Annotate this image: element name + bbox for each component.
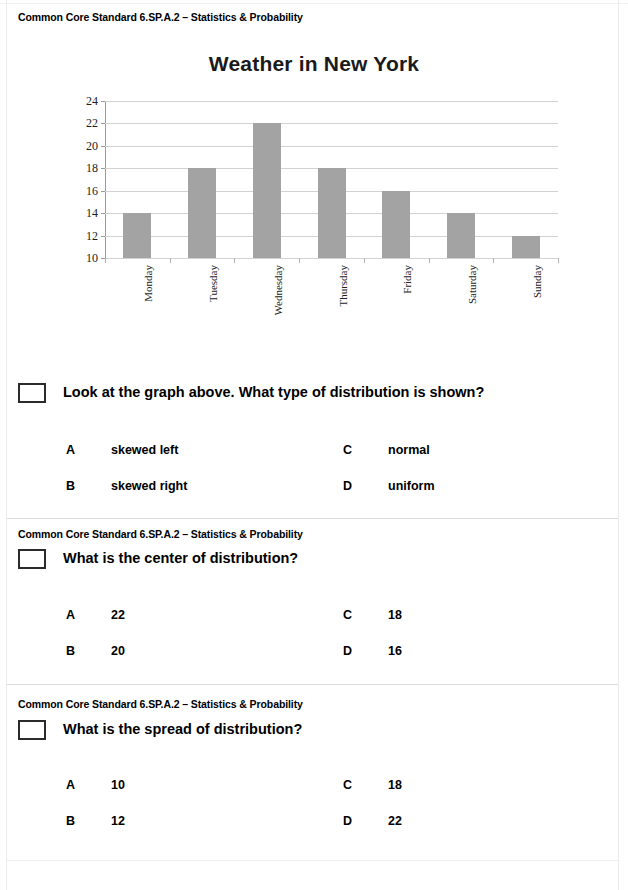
chart-y-tick-label: 24 [86, 94, 98, 109]
option-text-2-d[interactable]: 16 [388, 644, 402, 658]
block-separator-1 [7, 518, 618, 519]
option-text-3-a[interactable]: 10 [111, 778, 125, 792]
chart-x-tick-label: Thursday [337, 265, 349, 307]
block-separator-2 [7, 684, 618, 685]
standard-label-3: Common Core Standard 6.SP.A.2 – Statisti… [18, 698, 303, 710]
question-checkbox-2[interactable] [18, 549, 46, 569]
chart-gridline [105, 123, 558, 124]
standard-label-1: Common Core Standard 6.SP.A.2 – Statisti… [18, 11, 303, 23]
chart-y-tick-mark [101, 213, 105, 214]
chart-x-tick-label: Monday [142, 265, 154, 302]
chart-x-tick-mark [105, 258, 106, 263]
chart-title: Weather in New York [0, 52, 628, 76]
chart-bar [447, 213, 475, 258]
chart-y-tick-mark [101, 168, 105, 169]
chart-y-tick-label: 10 [86, 251, 98, 266]
chart-x-tick-label: Tuesday [207, 265, 219, 302]
chart-x-tick-mark [170, 258, 171, 263]
option-text-3-b[interactable]: 12 [111, 814, 125, 828]
chart-x-tick-mark [364, 258, 365, 263]
option-letter-2-a: A [66, 608, 75, 622]
question-checkbox-3[interactable] [18, 720, 46, 740]
question-prompt-2: What is the center of distribution? [63, 550, 298, 566]
option-letter-3-d: D [343, 814, 352, 828]
question-checkbox-1[interactable] [18, 383, 46, 403]
option-letter-3-c: C [343, 778, 352, 792]
chart-y-tick-mark [101, 123, 105, 124]
option-letter-1-a: A [66, 443, 75, 457]
chart-x-tick-mark [299, 258, 300, 263]
chart-x-tick-label: Saturday [466, 265, 478, 304]
question-prompt-1: Look at the graph above. What type of di… [63, 384, 484, 400]
bar-chart: Weather in New York Temperature (Celsius… [0, 40, 628, 360]
option-letter-2-c: C [343, 608, 352, 622]
chart-y-tick-label: 18 [86, 161, 98, 176]
chart-x-tick-label: Wednesday [272, 265, 284, 315]
option-letter-1-d: D [343, 479, 352, 493]
option-letter-1-c: C [343, 443, 352, 457]
option-letter-2-b: B [66, 644, 75, 658]
option-text-1-a[interactable]: skewed left [111, 443, 178, 457]
option-letter-3-b: B [66, 814, 75, 828]
page-edge-top [0, 3, 628, 4]
option-text-2-b[interactable]: 20 [111, 644, 125, 658]
standard-label-2: Common Core Standard 6.SP.A.2 – Statisti… [18, 528, 303, 540]
chart-x-tick-label: Sunday [531, 265, 543, 298]
option-letter-2-d: D [343, 644, 352, 658]
option-text-2-a[interactable]: 22 [111, 608, 125, 622]
chart-y-tick-label: 20 [86, 138, 98, 153]
option-letter-1-b: B [66, 479, 75, 493]
chart-y-tick-mark [101, 146, 105, 147]
chart-bar [318, 168, 346, 258]
chart-bar [123, 213, 151, 258]
chart-y-tick-label: 12 [86, 228, 98, 243]
option-text-1-b[interactable]: skewed right [111, 479, 187, 493]
chart-x-tick-label: Friday [401, 265, 413, 294]
chart-x-tick-mark [429, 258, 430, 263]
chart-gridline [105, 101, 558, 102]
option-text-1-d[interactable]: uniform [388, 479, 435, 493]
chart-bar [512, 236, 540, 258]
chart-bar [253, 123, 281, 258]
chart-y-tick-label: 22 [86, 116, 98, 131]
chart-y-tick-mark [101, 191, 105, 192]
option-letter-3-a: A [66, 778, 75, 792]
chart-gridline [105, 146, 558, 147]
option-text-1-c[interactable]: normal [388, 443, 430, 457]
option-text-3-d[interactable]: 22 [388, 814, 402, 828]
chart-y-tick-mark [101, 101, 105, 102]
option-text-2-c[interactable]: 18 [388, 608, 402, 622]
chart-y-tick-mark [101, 236, 105, 237]
chart-x-tick-mark [558, 258, 559, 263]
chart-y-tick-label: 16 [86, 183, 98, 198]
chart-x-tick-mark [234, 258, 235, 263]
page-bottom-edge [7, 860, 618, 861]
chart-plot-area: 1012141618202224MondayTuesdayWednesdayTh… [105, 101, 558, 258]
chart-y-tick-label: 14 [86, 206, 98, 221]
chart-x-tick-mark [493, 258, 494, 263]
chart-gridline [105, 258, 558, 259]
option-text-3-c[interactable]: 18 [388, 778, 402, 792]
question-prompt-3: What is the spread of distribution? [63, 721, 302, 737]
worksheet-page: Common Core Standard 6.SP.A.2 – Statisti… [0, 0, 628, 890]
chart-bar [188, 168, 216, 258]
chart-bar [382, 191, 410, 258]
